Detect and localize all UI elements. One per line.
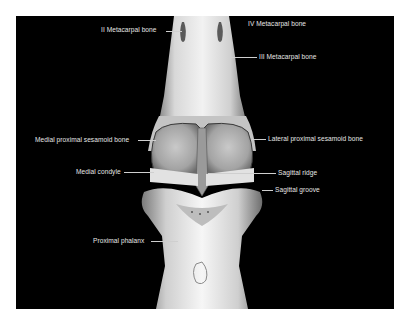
label-lateral-sesamoid: Lateral proximal sesamoid bone <box>268 135 363 143</box>
leader-sagittal-ridge <box>208 173 276 174</box>
label-iv-metacarpal: IV Metacarpal bone <box>248 20 306 28</box>
label-medial-sesamoid: Medial proximal sesamoid bone <box>35 136 129 144</box>
label-medial-condyle: Medial condyle <box>76 168 121 176</box>
label-sagittal-ridge: Sagittal ridge <box>278 169 317 177</box>
leader-lateral-sesamoid <box>252 139 266 140</box>
anatomy-image-panel: II Metacarpal bone IV Metacarpal bone II… <box>16 16 394 309</box>
label-ii-metacarpal: II Metacarpal bone <box>101 26 157 34</box>
label-sagittal-groove: Sagittal groove <box>275 186 320 194</box>
bone-rendering <box>16 16 394 309</box>
label-proximal-phalanx: Proximal phalanx <box>93 237 144 245</box>
leader-iii-metacarpal <box>230 57 257 58</box>
leader-ii-metacarpal <box>166 31 182 32</box>
leader-medial-sesamoid <box>138 140 156 141</box>
leader-medial-condyle <box>124 172 154 173</box>
leader-sagittal-groove <box>262 190 273 191</box>
label-iii-metacarpal: III Metacarpal bone <box>259 53 316 61</box>
leader-proximal-phalanx <box>151 241 178 242</box>
